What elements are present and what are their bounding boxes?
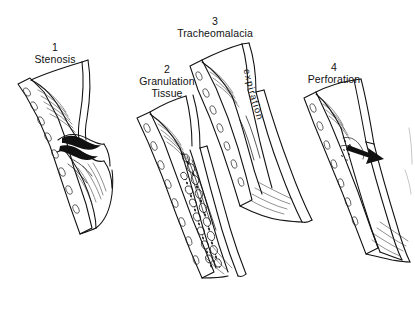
panel-3-tracheomalacia-drawing: expiration xyxy=(190,43,312,222)
tracheal-complications-figure: .ln{fill:none;stroke:#111;stroke-width:1… xyxy=(0,0,415,309)
edge-marks xyxy=(405,128,412,194)
illustration-canvas: .ln{fill:none;stroke:#111;stroke-width:1… xyxy=(0,0,415,309)
shading-panel3-lower xyxy=(250,182,292,214)
panel-4-perforation-drawing xyxy=(304,79,410,262)
panel-1-stenosis-drawing xyxy=(18,60,113,234)
expiration-annotation: expiration xyxy=(241,68,266,122)
